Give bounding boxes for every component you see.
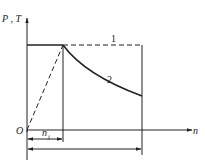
y-axis-label: P , T [1, 13, 22, 24]
curve-2-label: 2 [107, 74, 112, 85]
x-axis-label: n [193, 125, 198, 136]
nj-subscript: j [47, 133, 50, 141]
curve-1-label: 1 [111, 33, 116, 44]
origin-label: O [16, 125, 23, 136]
power-torque-speed-diagram: P , T O n 1 2 n j [0, 0, 205, 164]
nj-label: n [42, 127, 47, 138]
diagonal-dashed [27, 45, 63, 130]
curve-2 [63, 45, 142, 96]
